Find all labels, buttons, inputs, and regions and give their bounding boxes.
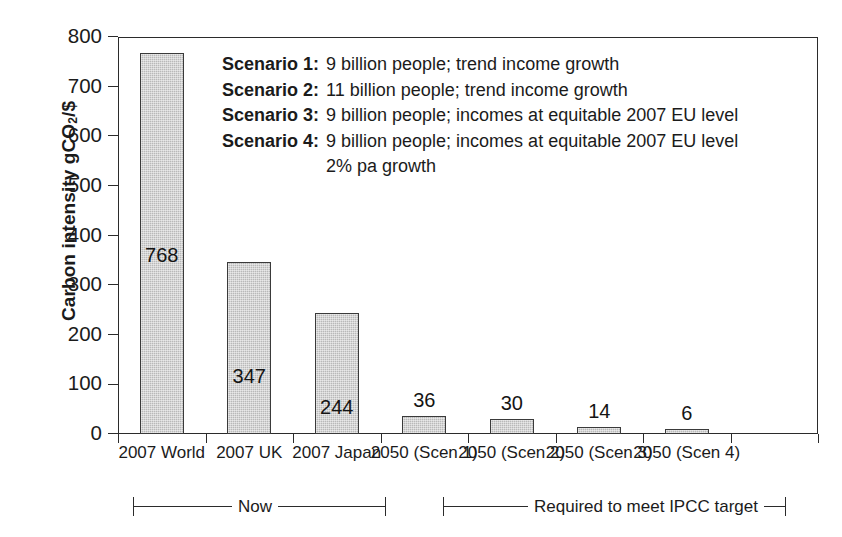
bar <box>490 419 534 434</box>
bar <box>402 416 446 434</box>
y-axis-tick-label-wrap: 500 <box>36 186 102 187</box>
bar-value-label: 244 <box>297 397 377 417</box>
bracket-end-cap <box>785 497 786 516</box>
y-axis-tick <box>108 185 118 186</box>
legend-scenario-text: 9 billion people; incomes at equitable 2… <box>326 103 738 129</box>
y-axis-tick-label-wrap: 0 <box>36 434 102 435</box>
y-axis-tick <box>108 284 118 285</box>
x-axis-tick <box>206 434 207 443</box>
chart-figure: Carbon intensity gCO2/$ 0100200300400500… <box>0 0 842 537</box>
y-axis-title-suffix: /$ <box>58 101 79 117</box>
legend-scenario-key: Scenario 2: <box>222 78 326 104</box>
y-axis-tick-label-wrap: 300 <box>36 285 102 286</box>
bar-value-label: 347 <box>209 366 289 386</box>
y-axis-tick <box>108 36 118 37</box>
y-axis-tick-label: 100 <box>44 373 102 394</box>
y-axis-tick-label: 400 <box>44 225 102 246</box>
y-axis-tick-label: 0 <box>44 423 102 444</box>
bar <box>227 262 271 434</box>
bracket-end-cap <box>443 497 444 516</box>
x-axis-tick <box>381 434 382 443</box>
bracket-label: Required to meet IPCC target <box>528 494 764 519</box>
legend-scenario-key: Scenario 1: <box>222 52 326 78</box>
legend-continuation-text: 2% pa growth <box>222 154 738 180</box>
bar <box>665 429 709 434</box>
x-axis-tick <box>293 434 294 443</box>
bar <box>577 427 621 434</box>
x-axis-tick <box>118 434 119 443</box>
x-axis-tick <box>818 434 819 443</box>
bar-value-label: 14 <box>559 401 639 421</box>
y-axis-tick-label-wrap: 100 <box>36 384 102 385</box>
y-axis-tick <box>108 334 118 335</box>
x-axis-tick <box>643 434 644 443</box>
y-axis-tick <box>108 384 118 385</box>
y-axis-tick-label-wrap: 700 <box>36 87 102 88</box>
y-axis-tick <box>108 86 118 87</box>
legend-scenario-key: Scenario 4: <box>222 129 326 155</box>
legend-row: Scenario 4:9 billion people; incomes at … <box>222 129 738 155</box>
legend-row: Scenario 1:9 billion people; trend incom… <box>222 52 738 78</box>
y-axis-tick-label: 300 <box>44 274 102 295</box>
y-axis-tick <box>108 135 118 136</box>
y-axis-tick-label: 500 <box>44 175 102 196</box>
x-axis-label: 2050 (Scen 4) <box>627 444 747 462</box>
bar-value-label: 36 <box>384 390 464 410</box>
legend-scenario-text: 9 billion people; trend income growth <box>326 52 619 78</box>
y-axis-tick <box>108 235 118 236</box>
y-axis-tick-label-wrap: 800 <box>36 37 102 38</box>
y-axis-tick-label-wrap: 200 <box>36 335 102 336</box>
legend-scenario-key: Scenario 3: <box>222 103 326 129</box>
y-axis-tick-label: 800 <box>44 26 102 47</box>
y-axis-tick-label-wrap: 400 <box>36 236 102 237</box>
x-axis-tick <box>468 434 469 443</box>
legend-row: Scenario 3:9 billion people; incomes at … <box>222 103 738 129</box>
bar-value-label: 768 <box>122 245 202 265</box>
y-axis-tick-label-wrap: 600 <box>36 136 102 137</box>
bracket: Required to meet IPCC target <box>0 494 842 520</box>
x-axis-tick <box>731 434 732 443</box>
bar-value-label: 6 <box>647 403 727 423</box>
bar-value-label: 30 <box>472 393 552 413</box>
legend-scenario-text: 9 billion people; incomes at equitable 2… <box>326 129 738 155</box>
legend-row: Scenario 2:11 billion people; trend inco… <box>222 78 738 104</box>
y-axis-tick-label: 600 <box>44 125 102 146</box>
scenario-legend: Scenario 1:9 billion people; trend incom… <box>222 52 738 180</box>
y-axis-tick <box>108 433 118 434</box>
x-axis-tick <box>556 434 557 443</box>
y-axis-tick-label: 200 <box>44 324 102 345</box>
y-axis-tick-label: 700 <box>44 76 102 97</box>
legend-scenario-text: 11 billion people; trend income growth <box>326 78 628 104</box>
